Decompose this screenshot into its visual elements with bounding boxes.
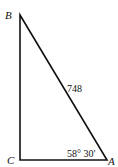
triangle-diagram: B C A 748 58° 30′ xyxy=(0,0,118,167)
vertex-b-label: B xyxy=(5,9,12,21)
hypotenuse-length-label: 748 xyxy=(67,83,82,94)
vertex-a-label: A xyxy=(107,155,115,167)
vertex-c-label: C xyxy=(7,154,15,166)
triangle-abc xyxy=(20,15,107,160)
angle-a-label: 58° 30′ xyxy=(67,148,96,159)
